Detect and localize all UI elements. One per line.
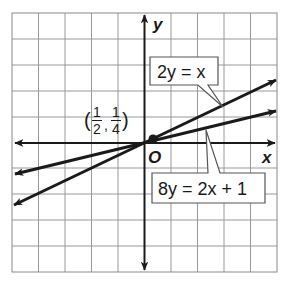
svg-text:1: 1 [112, 104, 120, 120]
intersection-label: ( 1 2 , 1 4 ) [84, 104, 129, 137]
svg-text:4: 4 [112, 121, 120, 137]
svg-text:2y = x: 2y = x [157, 62, 206, 82]
x-axis-label: x [261, 148, 273, 167]
origin-label: O [148, 148, 161, 167]
svg-text:,: , [104, 117, 108, 133]
svg-text:): ) [122, 109, 129, 131]
graph-figure: y x O ( 1 2 , 1 4 ) 2y = x 8y = 2x + 1 [0, 0, 306, 286]
svg-text:8y = 2x + 1: 8y = 2x + 1 [158, 179, 247, 199]
callout-8y-equals-2x-plus-1: 8y = 2x + 1 [152, 130, 265, 203]
intersection-point [149, 135, 158, 144]
callout-2y-equals-x: 2y = x [150, 57, 223, 107]
svg-text:(: ( [84, 109, 91, 131]
y-axis-label: y [152, 15, 164, 34]
svg-text:2: 2 [93, 121, 101, 137]
svg-text:1: 1 [93, 104, 101, 120]
